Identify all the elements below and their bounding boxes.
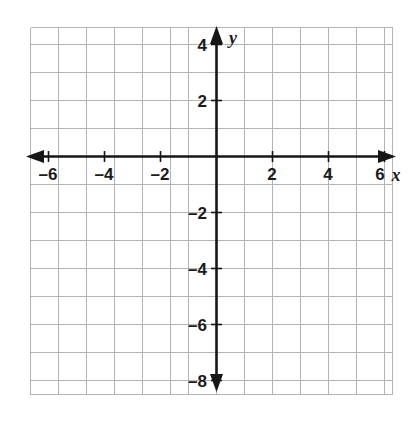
y-axis-label: y [227,28,238,48]
x-axis-label: x [391,165,401,185]
y-tick-label: –8 [188,372,207,391]
x-tick-label: 4 [323,165,333,184]
y-tick-label: –6 [188,316,207,335]
y-tick-label: 4 [198,36,208,55]
y-tick-label: 2 [198,92,207,111]
x-tick-label: 2 [267,165,276,184]
x-tick-label: –2 [151,165,170,184]
coordinate-grid-chart: –6 –4 –2 2 4 6 4 2 –2 –4 –6 –8 y x [0,0,419,422]
coordinate-plane-figure: –6 –4 –2 2 4 6 4 2 –2 –4 –6 –8 y x [0,0,419,422]
x-tick-label: 6 [375,165,384,184]
x-tick-label: –6 [39,165,58,184]
x-tick-label: –4 [95,165,114,184]
y-tick-label: –2 [188,204,207,223]
y-tick-label: –4 [188,260,207,279]
